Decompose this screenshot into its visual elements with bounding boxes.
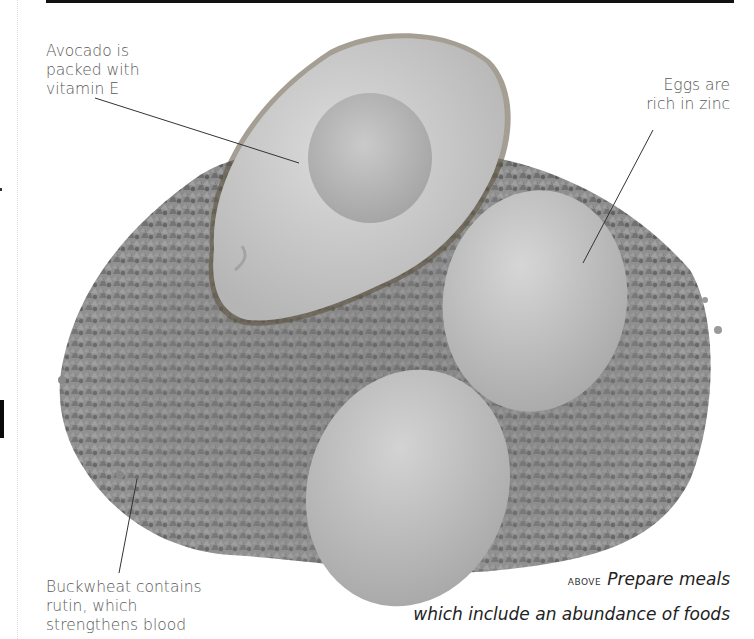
annotation-line: Avocado is xyxy=(46,42,139,61)
avocado-annotation: Avocado is packed with vitamin E xyxy=(46,42,139,99)
annotation-line: packed with xyxy=(46,61,139,80)
annotation-line: Eggs are xyxy=(646,76,730,95)
caption-text: Prepare meals xyxy=(607,569,730,589)
annotation-line: rutin, which xyxy=(46,597,202,616)
eggs-annotation: Eggs are rich in zinc xyxy=(646,76,730,114)
caption-line-1: abovePrepare meals xyxy=(568,569,730,591)
annotation-line: vitamin E xyxy=(46,80,139,99)
annotation-line: Buckwheat contains xyxy=(46,578,202,597)
caption-marker: above xyxy=(568,573,601,588)
annotation-line: strengthens blood xyxy=(46,616,202,635)
annotation-line: rich in zinc xyxy=(646,95,730,114)
caption-line-2: which include an abundance of foods xyxy=(413,604,730,624)
buckwheat-annotation: Buckwheat contains rutin, which strength… xyxy=(46,578,202,635)
